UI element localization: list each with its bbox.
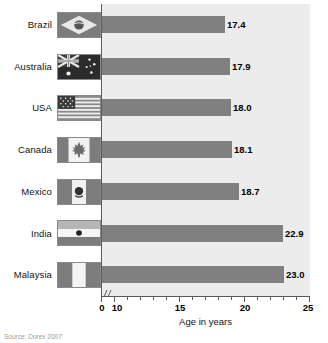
bar-malaysia: [102, 266, 284, 283]
bar-canada: [102, 141, 232, 158]
flag-mexico-icon: [57, 179, 101, 205]
x-tick-minor: [153, 296, 154, 300]
x-tick-minor: [270, 296, 271, 300]
bar-mexico: [102, 183, 239, 200]
x-tick-minor: [283, 296, 284, 300]
x-tick-minor: [231, 296, 232, 300]
bar-india: [102, 225, 283, 242]
bar-australia: [102, 58, 230, 75]
category-label-australia: Australia: [0, 62, 54, 72]
x-tick-label-25: 25: [303, 303, 314, 313]
x-tick-minor: [218, 296, 219, 300]
x-tick-minor: [257, 296, 258, 300]
value-label-mexico: 18.7: [241, 187, 260, 197]
flag-malaysia-icon: [57, 262, 101, 288]
category-label-brazil: Brazil: [0, 20, 54, 30]
x-tick-minor: [166, 296, 167, 300]
flag-india-icon: [57, 220, 101, 246]
bar-chart-figure: Brazil Australia: [0, 0, 328, 343]
value-label-malaysia: 23.0: [286, 270, 305, 280]
value-label-india: 22.9: [285, 229, 304, 239]
x-tick-minor: [296, 296, 297, 300]
x-tick-minor: [127, 296, 128, 300]
value-label-canada: 18.1: [234, 145, 253, 155]
plot-area: [101, 4, 310, 296]
value-label-australia: 17.9: [232, 62, 251, 72]
flag-usa-icon: [57, 95, 101, 121]
value-label-usa: 18.0: [233, 103, 252, 113]
value-label-brazil: 17.4: [227, 20, 246, 30]
category-label-mexico: Mexico: [0, 187, 54, 197]
flag-canada-icon: [57, 137, 101, 163]
category-label-usa: USA: [0, 103, 54, 113]
source-note: Source: Durex 2007: [4, 334, 62, 341]
x-tick-minor: [192, 296, 193, 300]
x-tick-label-20: 20: [240, 303, 251, 313]
x-tick-minor: [205, 296, 206, 300]
axis-break-icon: [103, 289, 112, 297]
flag-brazil-icon: [57, 12, 101, 38]
x-tick-label-10: 10: [112, 303, 123, 313]
x-tick-label-0: 0: [99, 303, 104, 313]
x-tick-minor: [140, 296, 141, 300]
x-tick-label-15: 15: [175, 303, 186, 313]
category-label-canada: Canada: [0, 145, 54, 155]
bar-brazil: [102, 16, 225, 33]
flag-australia-icon: [57, 54, 101, 80]
category-label-malaysia: Malaysia: [0, 270, 54, 280]
bar-usa: [102, 99, 231, 116]
category-label-india: India: [0, 229, 54, 239]
x-axis-title: Age in years: [101, 317, 310, 327]
